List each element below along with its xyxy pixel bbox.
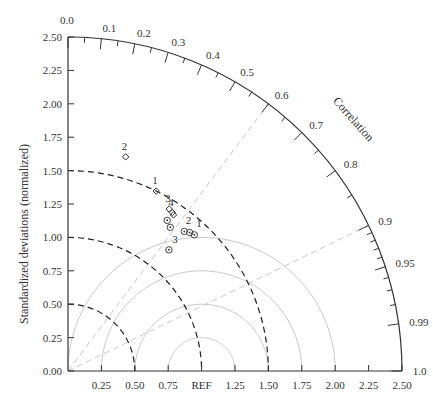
grid-lines — [68, 104, 369, 371]
correlation-tick — [294, 132, 301, 140]
point-label: 1 — [152, 174, 158, 186]
correlation-tick-label: 0.9 — [378, 215, 392, 227]
point-label: 4 — [168, 196, 174, 208]
correlation-minor-tick — [249, 92, 252, 96]
correlation-minor-tick — [314, 150, 318, 154]
point-label: 1 — [196, 217, 202, 229]
correlation-minor-tick — [282, 117, 285, 121]
correlation-tick — [375, 267, 385, 270]
correlation-minor-tick — [216, 73, 218, 78]
y-tick-label: 2.50 — [43, 31, 63, 43]
axis-labels: 0.000.250.500.751.001.251.501.752.002.25… — [17, 14, 429, 391]
correlation-minor-tick — [387, 290, 392, 291]
point-label: 2 — [122, 140, 128, 152]
point-label: 3 — [172, 233, 178, 245]
y-tick-label: 0.50 — [43, 298, 63, 310]
correlation-tick-label: 0.6 — [275, 89, 289, 101]
axes — [68, 37, 402, 371]
correlation-minor-tick — [374, 248, 379, 250]
correlation-minor-tick — [390, 305, 395, 306]
taylor-diagram: 0.000.250.500.751.001.251.501.752.002.25… — [0, 0, 433, 411]
circle-marker-dot — [166, 219, 168, 221]
correlation-tick-label: 0.1 — [102, 22, 116, 34]
x-tick-label: 0.50 — [125, 379, 145, 391]
correlation-minor-tick — [377, 257, 382, 259]
x-tick-label: 1.25 — [225, 379, 245, 391]
correlation-minor-tick — [117, 41, 118, 46]
y-tick-label: 0.25 — [43, 332, 63, 344]
circle-marker-dot — [169, 226, 171, 228]
point-label: 2 — [186, 214, 192, 226]
circle-marker-dot — [193, 234, 195, 236]
correlation-tick-label: 0.4 — [206, 49, 220, 61]
correlation-tick — [133, 44, 135, 54]
x-tick-label: REF — [192, 379, 212, 391]
x-tick-label: 2.25 — [359, 379, 379, 391]
y-tick-label: 2.25 — [43, 64, 63, 76]
correlation-tick-label: 0.5 — [240, 66, 254, 78]
x-tick-label: 2.50 — [392, 379, 412, 391]
correlation-tick-label: 0.0 — [60, 14, 74, 26]
correlation-minor-tick — [384, 277, 389, 278]
correlation-tick-label: 0.8 — [344, 158, 358, 170]
y-axis-title: Standardized deviations (normalized) — [17, 144, 31, 324]
circle-marker-dot — [183, 230, 185, 232]
rms-arc — [101, 271, 301, 371]
correlation-tick-label: 0.95 — [395, 257, 415, 269]
correlation-tick-label: 0.99 — [409, 316, 429, 328]
correlation-tick — [165, 52, 168, 62]
correlation-minor-tick — [370, 240, 375, 242]
correlation-tick — [262, 104, 268, 113]
x-tick-label: 2.00 — [326, 379, 346, 391]
std-arc — [68, 237, 202, 371]
correlation-tick-label: 1.0 — [413, 365, 427, 377]
circle-marker-dot — [189, 231, 191, 233]
x-tick-label: 0.25 — [92, 379, 112, 391]
y-tick-label: 1.50 — [43, 165, 63, 177]
correlation-tick — [327, 171, 336, 177]
correlation-title: Correlation — [330, 94, 377, 144]
correlation-tick — [388, 324, 399, 326]
correlation-tick — [230, 82, 235, 91]
y-tick-label: 0.75 — [43, 265, 63, 277]
correlation-tick — [197, 65, 201, 75]
y-tick-label: 1.75 — [43, 131, 63, 143]
correlation-guide-line — [68, 104, 268, 371]
correlation-minor-tick — [183, 58, 185, 63]
correlation-minor-tick — [367, 233, 372, 235]
correlation-arc — [68, 37, 402, 371]
x-tick-label: 1.75 — [292, 379, 312, 391]
x-tick-label: 1.50 — [259, 379, 279, 391]
correlation-tick — [100, 39, 101, 50]
y-tick-label: 1.25 — [43, 198, 63, 210]
circle-marker-dot — [168, 249, 170, 251]
diamond-marker — [122, 154, 128, 160]
correlation-tick-label: 0.7 — [309, 119, 323, 131]
correlation-minor-tick — [347, 195, 352, 198]
correlation-guide-line — [68, 225, 369, 371]
correlation-minor-tick — [150, 48, 151, 53]
y-tick-label: 1.00 — [43, 231, 63, 243]
correlation-tick-label: 0.3 — [171, 36, 185, 48]
correlation-tick — [359, 225, 369, 230]
y-tick-label: 0.00 — [43, 365, 63, 377]
y-tick-label: 2.00 — [43, 98, 63, 110]
correlation-tick-label: 0.2 — [137, 27, 151, 39]
x-tick-label: 0.75 — [159, 379, 179, 391]
